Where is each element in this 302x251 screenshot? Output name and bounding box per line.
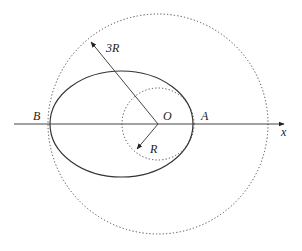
label-point-a: A: [200, 109, 209, 123]
label-r: R: [149, 142, 158, 156]
label-origin: O: [163, 109, 172, 123]
orbit-diagram: 3R R O A B x: [0, 0, 302, 251]
radius-3r-arrow: [91, 42, 158, 124]
label-point-b: B: [33, 109, 41, 123]
label-x-axis: x: [280, 125, 287, 139]
label-3r: 3R: [105, 41, 120, 55]
